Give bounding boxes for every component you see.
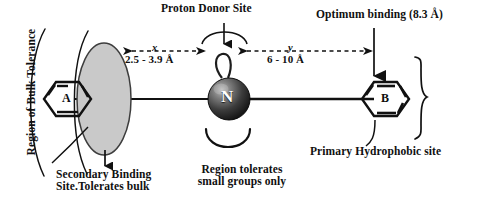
ring-a-letter: A: [62, 92, 71, 105]
secondary-binding-caption-line1: Secondary Binding: [56, 168, 151, 180]
distance-y-value: 6 - 10 Å: [267, 54, 304, 66]
region-tolerates-caption-line2: small groups only: [186, 175, 298, 187]
nitrogen-atom-label: N: [221, 88, 233, 106]
optimum-binding-label: Optimum binding (8.3 Å): [316, 8, 443, 20]
region-tolerates-caption-line1: Region tolerates: [186, 163, 298, 175]
distance-x-letter: x: [152, 42, 157, 53]
secondary-binding-caption-line2: Site.Tolerates bulk: [56, 180, 151, 192]
region-tolerates-small-groups-caption: Region tolerates small groups only: [186, 163, 298, 187]
proton-donor-site-label: Proton Donor Site: [161, 2, 252, 14]
secondary-binding-ellipse: [77, 43, 131, 155]
distance-x-value: 2.5 - 3.9 Å: [125, 54, 173, 66]
region-of-bulk-tolerance-label: Region of Bulk Tolerance: [25, 17, 37, 167]
primary-hydrophobic-site-caption: Primary Hydrophobic site: [310, 145, 441, 157]
primary-hydrophobic-leader: [366, 120, 375, 146]
small-groups-arc: [206, 129, 250, 147]
distance-y-letter: y: [288, 42, 293, 53]
secondary-binding-caption: Secondary Binding Site.Tolerates bulk: [56, 168, 151, 192]
ring-b-letter: B: [381, 92, 389, 105]
primary-hydrophobic-brace: [415, 57, 427, 139]
diagram-canvas: Region of Bulk Tolerance Proton Donor Si…: [0, 0, 489, 207]
